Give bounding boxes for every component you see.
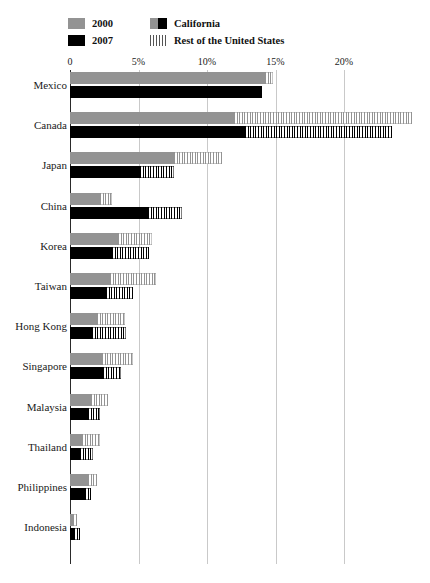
category-label: Japan [42, 159, 67, 171]
bar-2007 [70, 287, 133, 299]
bar-group: Singapore [0, 353, 430, 379]
bar-2007 [70, 408, 100, 420]
bar-segment-california [70, 474, 88, 486]
chart-plot-area: MexicoCanadaJapanChinaKoreaTaiwanHong Ko… [0, 70, 430, 564]
hatched-square-icon [150, 35, 167, 46]
bar-2007 [70, 247, 149, 259]
bar-segment-california [70, 408, 88, 420]
bar-segment-rest-of-us [91, 394, 109, 406]
bar-segment-rest-of-us [85, 488, 90, 500]
bar-segment-california [70, 394, 91, 406]
bar-segment-rest-of-us [118, 233, 152, 245]
bar-group: Philippines [0, 474, 430, 500]
bar-2007 [70, 528, 80, 540]
bar-segment-rest-of-us [174, 152, 222, 164]
bar-2007 [70, 327, 126, 339]
category-label: Singapore [22, 360, 67, 372]
bar-segment-california [70, 287, 106, 299]
bar-2007 [70, 207, 182, 219]
grey-square-icon [68, 18, 85, 29]
bar-group: Taiwan [0, 273, 430, 299]
bar-segment-rest-of-us [265, 72, 273, 84]
bar-2000 [70, 233, 152, 245]
bar-segment-rest-of-us [148, 207, 182, 219]
x-tick-label: 10% [198, 56, 216, 67]
category-label: Philippines [17, 481, 67, 493]
x-tick-label: 5% [132, 56, 145, 67]
bar-group: Canada [0, 112, 430, 138]
bar-segment-rest-of-us [88, 474, 98, 486]
category-label: Korea [40, 240, 67, 252]
bar-2000 [70, 152, 222, 164]
bar-2000 [70, 514, 77, 526]
bar-segment-rest-of-us [73, 514, 77, 526]
bar-group: Mexico [0, 72, 430, 98]
category-label: Indonesia [24, 521, 67, 533]
bar-group: China [0, 193, 430, 219]
category-label: Canada [34, 119, 67, 131]
bar-segment-california [70, 488, 85, 500]
bar-segment-california [70, 434, 82, 446]
bar-2000 [70, 353, 133, 365]
solid-split-square-icon [150, 18, 167, 29]
bar-segment-california [70, 353, 102, 365]
legend-label-california: California [174, 18, 220, 29]
bar-segment-california [70, 327, 92, 339]
bar-group: Malaysia [0, 394, 430, 420]
bar-group: Hong Kong [0, 313, 430, 339]
legend-item-2000: 2000 [68, 16, 113, 31]
bar-2000 [70, 434, 100, 446]
bar-segment-rest-of-us [97, 313, 124, 325]
bar-2007 [70, 488, 91, 500]
bar-2000 [70, 313, 125, 325]
bar-2000 [70, 394, 108, 406]
bar-segment-rest-of-us [234, 112, 412, 124]
bar-segment-california [70, 247, 112, 259]
bar-2007 [70, 126, 392, 138]
legend-item-2007: 2007 [68, 33, 113, 48]
bar-segment-rest-of-us [112, 247, 149, 259]
chart-legend: 2000 2007 California Rest of the United … [68, 16, 368, 52]
bar-segment-rest-of-us [80, 448, 94, 460]
x-tick-label: 20% [335, 56, 353, 67]
bar-segment-rest-of-us [106, 287, 133, 299]
legend-label-2007: 2007 [92, 35, 113, 46]
bar-2007 [70, 166, 174, 178]
bar-segment-california [70, 72, 265, 84]
bar-2000 [70, 474, 97, 486]
bar-2000 [70, 112, 412, 124]
legend-label-rest-of-us: Rest of the United States [174, 35, 284, 46]
x-tick-label: 0 [68, 56, 73, 67]
bar-segment-rest-of-us [74, 528, 79, 540]
category-label: China [41, 200, 67, 212]
bar-segment-california [70, 207, 148, 219]
bar-segment-rest-of-us [245, 126, 392, 138]
bar-2007 [70, 448, 93, 460]
bar-2007 [70, 367, 121, 379]
bar-group: Thailand [0, 434, 430, 460]
bar-segment-california [70, 448, 80, 460]
bar-segment-rest-of-us [82, 434, 100, 446]
bar-segment-rest-of-us [92, 327, 126, 339]
category-label: Mexico [33, 79, 67, 91]
legend-item-california: California [150, 16, 220, 31]
bar-segment-rest-of-us [110, 273, 157, 285]
x-tick-label: 15% [266, 56, 284, 67]
bar-segment-rest-of-us [100, 193, 112, 205]
black-square-icon [68, 35, 85, 46]
bar-segment-rest-of-us [102, 353, 134, 365]
bar-segment-rest-of-us [103, 367, 121, 379]
bar-2000 [70, 193, 112, 205]
bar-segment-california [70, 193, 100, 205]
bar-segment-rest-of-us [88, 408, 100, 420]
bar-2000 [70, 273, 156, 285]
bar-segment-california [70, 273, 110, 285]
bar-segment-california [70, 86, 262, 98]
bar-segment-california [70, 367, 103, 379]
x-axis-tick-labels: 05%10%15%20% [0, 56, 430, 70]
bar-group: Japan [0, 152, 430, 178]
legend-item-rest-of-us: Rest of the United States [150, 33, 284, 48]
legend-label-2000: 2000 [92, 18, 113, 29]
category-label: Thailand [28, 441, 67, 453]
category-label: Malaysia [27, 401, 67, 413]
